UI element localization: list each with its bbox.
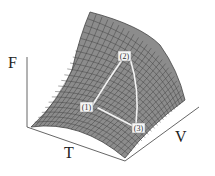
point-label-1: (1) — [82, 103, 92, 112]
point-marker-1: (1) — [80, 102, 93, 112]
point-marker-3: (3) — [132, 123, 145, 133]
v-axis-label: V — [175, 128, 187, 145]
f-axis-label: F — [8, 54, 17, 71]
surface-plot-figure: (1) (2) (3) F T V — [0, 0, 215, 176]
t-axis-label: T — [64, 144, 74, 161]
point-label-2: (2) — [120, 52, 130, 61]
surface-plot-canvas: (1) (2) (3) F T V — [0, 0, 215, 176]
point-label-3: (3) — [134, 124, 144, 133]
point-marker-2: (2) — [118, 51, 131, 61]
